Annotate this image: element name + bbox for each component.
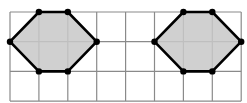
vertex-dot [65, 68, 71, 74]
right-hexagon-polygon [155, 12, 242, 71]
vertex-dot [209, 68, 215, 74]
left-hexagon [7, 9, 100, 75]
vertex-dot [36, 9, 42, 15]
vertex-dot [7, 39, 13, 45]
vertex-dot [65, 9, 71, 15]
vertex-dot [151, 39, 157, 45]
vertex-dot [180, 68, 186, 74]
vertex-dot [180, 9, 186, 15]
vertex-dot [209, 9, 215, 15]
vertex-dot [36, 68, 42, 74]
grid-diagram [0, 0, 247, 103]
vertex-dot [238, 39, 244, 45]
left-hexagon-polygon [10, 12, 97, 71]
vertex-dot [94, 39, 100, 45]
right-hexagon [151, 9, 244, 75]
